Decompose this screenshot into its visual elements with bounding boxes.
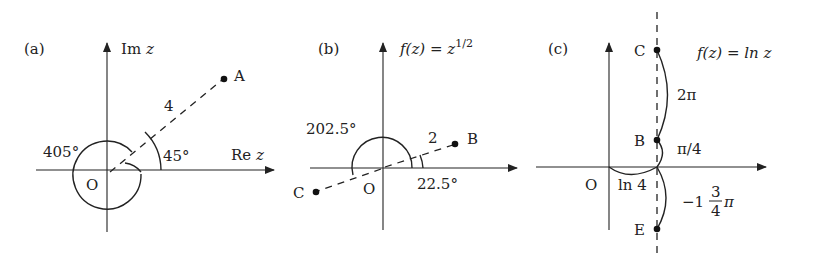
angle-label-22-5: 22.5° <box>417 175 458 193</box>
point-a <box>221 76 228 83</box>
panel-a-label: (a) <box>24 40 45 58</box>
panel-c-label: (c) <box>548 40 568 58</box>
function-label-sqrt: f(z) = z1/2 <box>399 37 473 58</box>
complex-plane-figure: (a) Im z Re z O A 4 45° 405° (b) f(z) = … <box>0 0 821 269</box>
point-c <box>654 47 661 54</box>
point-b-label: B <box>467 130 478 148</box>
point-e <box>654 226 661 233</box>
point-e-label: E <box>634 221 645 239</box>
angle-label-202-5: 202.5° <box>306 120 356 138</box>
angle-arc-202-5 <box>352 137 412 175</box>
angle-arc-45 <box>145 132 161 170</box>
origin-label: O <box>363 180 375 198</box>
point-b-label: B <box>634 132 645 150</box>
panel-b: (b) f(z) = z1/2 O B 2 C 22.5° 202.5° <box>293 37 517 230</box>
imaginary-axis-label: Im z <box>121 40 154 58</box>
label-2pi: 2π <box>677 86 697 104</box>
point-c-label: C <box>293 184 304 202</box>
origin-label: O <box>86 176 98 194</box>
label-frac-num: 3 <box>711 183 721 201</box>
modulus-label: 2 <box>428 129 438 147</box>
panel-c: (c) f(z) = ln z O ln 4 C B E 2π π/4 −1 3… <box>536 12 771 258</box>
label-pi-over-4: π/4 <box>677 140 701 158</box>
label-frac-den: 4 <box>711 202 721 220</box>
modulus-label: 4 <box>164 97 174 115</box>
point-b <box>654 137 661 144</box>
point-c <box>313 189 320 196</box>
modulus-ray-b <box>385 145 453 167</box>
point-c-label: C <box>634 42 645 60</box>
angle-label-405: 405° <box>43 143 79 161</box>
label-neg-1-3-4-pi-whole: −1 <box>682 193 704 211</box>
point-b <box>452 141 459 148</box>
point-a-label: A <box>233 67 245 85</box>
path-o-to-ln4 <box>609 167 657 175</box>
label-pi: π <box>723 193 735 211</box>
real-axis-label: Re z <box>231 146 264 164</box>
arc-b-to-c <box>657 50 668 140</box>
panel-a: (a) Im z Re z O A 4 45° 405° <box>24 40 274 232</box>
function-label-log: f(z) = ln z <box>696 44 771 62</box>
origin-label: O <box>585 176 597 194</box>
ln4-label: ln 4 <box>618 176 647 194</box>
panel-b-label: (b) <box>318 40 339 58</box>
angle-label-45: 45° <box>163 147 190 165</box>
arc-to-e <box>657 167 666 229</box>
angle-arc-22-5 <box>420 155 423 168</box>
arc-b <box>657 140 663 167</box>
